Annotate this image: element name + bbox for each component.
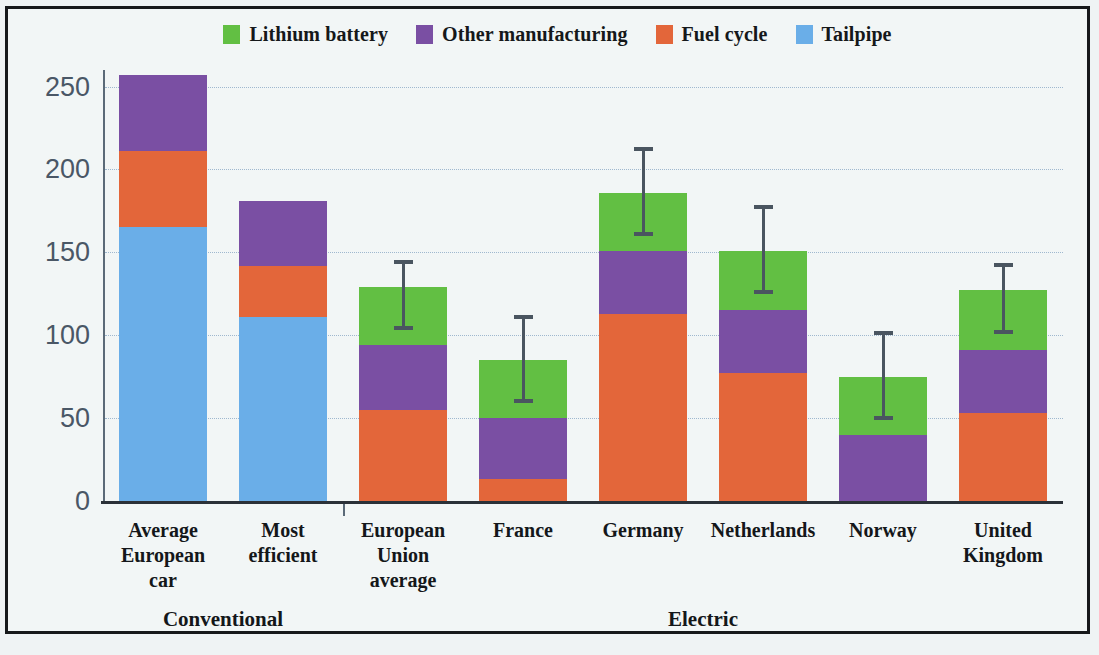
error-bar-cap-lower (514, 399, 533, 403)
legend-swatch-tailpipe (796, 25, 813, 44)
bar-most-efficient[interactable] (239, 201, 327, 501)
bar-segment-tailpipe (119, 227, 207, 501)
error-bar-cap-upper (874, 331, 893, 335)
group-label-electric: Electric (583, 607, 823, 632)
error-bar-line (522, 319, 525, 404)
error-bar (359, 264, 447, 501)
legend-label-fuel-cycle: Fuel cycle (682, 23, 768, 46)
group-divider-tick (343, 504, 345, 516)
x-axis-tick-labels: AverageEuropeancarMostefficientEuropeanU… (103, 512, 1063, 607)
error-bar-cap-upper (754, 205, 773, 209)
error-bar (479, 319, 567, 501)
chart-page: Lithium battery Other manufacturing Fuel… (0, 0, 1099, 655)
x-axis-tick-label-line: France (453, 518, 593, 543)
x-axis-tick-label-norway: Norway (813, 518, 953, 543)
error-bar-cap-upper (634, 147, 653, 151)
y-axis-tick-label: 100 (45, 320, 90, 351)
x-axis-tick-label-line: efficient (213, 543, 353, 568)
y-axis-tick-labels: 050100150200250 (8, 57, 103, 504)
x-axis-tick-label-netherlands: Netherlands (693, 518, 833, 543)
error-bar (719, 209, 807, 501)
error-bar-cap-upper (514, 315, 533, 319)
error-bar (839, 335, 927, 501)
error-bar-cap-lower (394, 326, 413, 330)
legend-item-lithium-battery: Lithium battery (223, 23, 388, 46)
error-bar-line (762, 209, 765, 294)
error-bar-line (882, 335, 885, 420)
x-axis-tick-label-most-efficient: Mostefficient (213, 518, 353, 568)
x-axis-tick-label-line: car (93, 568, 233, 593)
x-axis-group-labels: ConventionalElectric (103, 607, 1063, 641)
legend-swatch-lithium-battery (223, 25, 240, 44)
x-axis-tick-label-line: Norway (813, 518, 953, 543)
error-bar-cap-upper (994, 263, 1013, 267)
x-axis-tick-label-line: United (933, 518, 1073, 543)
group-label-conventional: Conventional (103, 607, 343, 632)
bar-segment-other-manufacturing (119, 75, 207, 151)
error-bar-cap-lower (634, 232, 653, 236)
bar-segment-fuel-cycle (119, 151, 207, 227)
x-axis-tick-label-european-union-average: EuropeanUnionaverage (333, 518, 473, 593)
error-bar (599, 151, 687, 501)
legend-swatch-fuel-cycle (656, 25, 673, 44)
legend-label-lithium-battery: Lithium battery (249, 23, 388, 46)
plot-area (103, 57, 1063, 504)
bar-series (103, 57, 1063, 504)
y-axis-tick-label: 0 (75, 486, 90, 517)
x-axis-tick-label-united-kingdom: UnitedKingdom (933, 518, 1073, 568)
x-axis-tick-label-line: average (333, 568, 473, 593)
y-axis-tick-label: 200 (45, 154, 90, 185)
error-bar-cap-lower (874, 416, 893, 420)
bar-segment-tailpipe (239, 317, 327, 501)
y-axis-tick-label: 150 (45, 237, 90, 268)
legend-swatch-other-manufacturing (416, 25, 433, 44)
bar-segment-fuel-cycle (239, 266, 327, 317)
legend-item-other-manufacturing: Other manufacturing (416, 23, 627, 46)
error-bar-line (402, 264, 405, 330)
x-axis-tick-label-line: Kingdom (933, 543, 1073, 568)
legend-label-other-manufacturing: Other manufacturing (442, 23, 627, 46)
x-axis-tick-label-line: European (93, 543, 233, 568)
legend-item-tailpipe: Tailpipe (796, 23, 892, 46)
chart-frame: Lithium battery Other manufacturing Fuel… (5, 6, 1090, 634)
x-axis-tick-label-france: France (453, 518, 593, 543)
bar-average-european-car[interactable] (119, 75, 207, 501)
x-axis-tick-label-line: Most (213, 518, 353, 543)
legend-label-tailpipe: Tailpipe (822, 23, 892, 46)
x-axis-tick-label-average-european-car: AverageEuropeancar (93, 518, 233, 593)
error-bar-cap-lower (754, 290, 773, 294)
legend-item-fuel-cycle: Fuel cycle (656, 23, 768, 46)
chart-legend: Lithium battery Other manufacturing Fuel… (8, 23, 1099, 46)
bar-segment-other-manufacturing (239, 201, 327, 266)
x-axis-tick-label-line: European (333, 518, 473, 543)
y-axis-tick-label: 50 (60, 403, 90, 434)
x-axis-tick-label-line: Average (93, 518, 233, 543)
error-bar-line (1002, 267, 1005, 333)
x-axis-tick-label-line: Germany (573, 518, 713, 543)
error-bar-line (642, 151, 645, 236)
error-bar-cap-upper (394, 260, 413, 264)
error-bar-cap-lower (994, 330, 1013, 334)
error-bar (959, 267, 1047, 501)
x-axis-tick-label-line: Union (333, 543, 473, 568)
y-axis-tick-label: 250 (45, 71, 90, 102)
x-axis-tick-label-germany: Germany (573, 518, 713, 543)
x-axis-tick-label-line: Netherlands (693, 518, 833, 543)
